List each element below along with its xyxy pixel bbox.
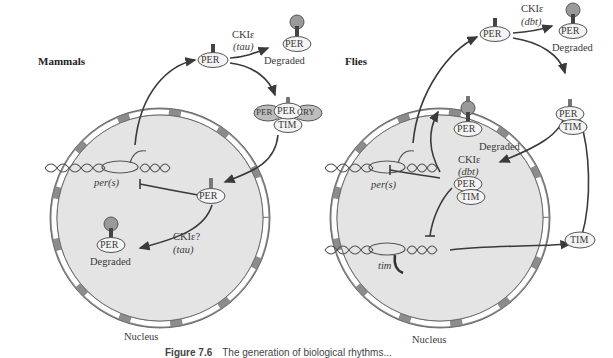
flies-cyto-degraded-label: Degraded [552, 43, 593, 54]
mammals-complex-right: CRY [297, 108, 315, 117]
flies-cyto-tim-label: TIM [570, 235, 588, 245]
mammals-cyto-per-label: PER [201, 55, 219, 65]
mammals-complex-bottom: TIM [278, 120, 296, 130]
mammals-cyto-kinase: CKIε [232, 30, 255, 41]
flies-nucleus-label: Nucleus [412, 335, 446, 346]
mammals-nuclear-kinase-gene: (tau) [173, 245, 193, 256]
flies-cyto-per-label: PER [483, 29, 501, 39]
flies-gene-tim-label: tim [378, 261, 391, 272]
mammals-nucleus-label: Nucleus [124, 332, 158, 343]
mammals-complex-left: PER [256, 108, 273, 117]
flies-nuclear-complex-bottom: TIM [461, 192, 479, 202]
flies-nuclear-kinase-gene: (dbt) [458, 167, 478, 178]
mammals-nuclear-degraded-label: Degraded [90, 257, 131, 268]
mammals-nuclear-per-label: PER [199, 191, 217, 201]
mammals-nucleus [50, 108, 270, 328]
flies-nuclear-degraded-per-label: PER [457, 124, 475, 134]
flies-nuclear-kinase: CKIε [458, 155, 481, 166]
figure-caption: Figure 7.6The generation of biological r… [165, 347, 392, 358]
mammals-cyto-kinase-gene: (tau) [233, 42, 253, 53]
mammals-gene-label: per(s) [94, 178, 119, 189]
mammals-nuclear-kinase: CKIε? [173, 232, 200, 243]
mammals-nuclear-degraded-per-label: PER [100, 240, 118, 250]
flies-cyto-kinase: CKIε [521, 4, 544, 15]
mammals-cyto-degraded-per-label: PER [285, 39, 303, 49]
flies-nuclear-degraded-label: Degraded [479, 142, 520, 153]
figure-caption-text: The generation of biological rhythms... [222, 347, 392, 358]
flies-gene-per-label: per(s) [371, 180, 396, 191]
flies-title: Flies [345, 56, 367, 67]
flies-nuclear-complex-top: PER [457, 179, 475, 189]
flies-cyto-kinase-gene: (dbt) [521, 17, 541, 28]
mammals-cyto-degraded-label: Degraded [264, 56, 305, 67]
flies-cyto-degraded-per-label: PER [561, 26, 579, 36]
figure-number: Figure 7.6 [165, 347, 212, 358]
mammals-title: Mammals [38, 56, 85, 67]
flies-cyto-complex-top: PER [559, 109, 577, 119]
flies-cyto-complex-bottom: TIM [563, 122, 581, 132]
mammals-complex-center: PER [277, 106, 295, 116]
